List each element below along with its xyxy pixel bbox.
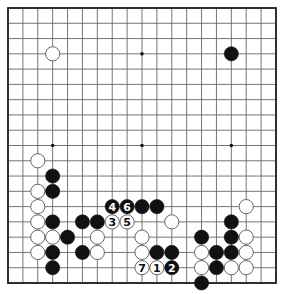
white-stone-7: 7 bbox=[135, 261, 149, 275]
move-number: 2 bbox=[168, 262, 176, 275]
stone-disc bbox=[209, 245, 223, 259]
stone-disc bbox=[46, 169, 60, 183]
white-stone bbox=[194, 261, 208, 275]
stone-disc bbox=[31, 230, 45, 244]
stone-disc bbox=[239, 230, 253, 244]
black-stone bbox=[46, 184, 60, 198]
stone-disc bbox=[90, 230, 104, 244]
stone-disc bbox=[60, 230, 74, 244]
white-stone bbox=[194, 245, 208, 259]
stone-disc bbox=[75, 215, 89, 229]
black-stone-6: 6 bbox=[120, 200, 134, 214]
black-stone bbox=[46, 169, 60, 183]
stone-disc bbox=[224, 261, 238, 275]
stone-disc bbox=[209, 261, 223, 275]
black-stone bbox=[194, 230, 208, 244]
move-number: 7 bbox=[138, 262, 146, 275]
stone-disc bbox=[224, 215, 238, 229]
go-board: 4635712 bbox=[0, 0, 286, 294]
stone-disc bbox=[46, 215, 60, 229]
black-stone bbox=[75, 245, 89, 259]
stone-disc bbox=[194, 245, 208, 259]
black-stone bbox=[209, 245, 223, 259]
white-stone bbox=[31, 215, 45, 229]
black-stone bbox=[224, 245, 238, 259]
white-stone-1: 1 bbox=[150, 261, 164, 275]
black-stone bbox=[194, 276, 208, 290]
stone-disc bbox=[46, 47, 60, 61]
white-stone bbox=[224, 261, 238, 275]
stone-disc bbox=[90, 215, 104, 229]
move-number: 4 bbox=[108, 201, 116, 214]
black-stone bbox=[135, 200, 149, 214]
black-stone bbox=[224, 215, 238, 229]
black-stone bbox=[75, 215, 89, 229]
stone-disc bbox=[31, 184, 45, 198]
black-stone bbox=[46, 245, 60, 259]
white-stone bbox=[31, 184, 45, 198]
stone-disc bbox=[194, 230, 208, 244]
black-stone bbox=[60, 230, 74, 244]
star-point bbox=[230, 144, 234, 148]
move-number: 5 bbox=[123, 216, 131, 229]
white-stone bbox=[165, 215, 179, 229]
move-number: 1 bbox=[153, 262, 161, 275]
black-stone bbox=[224, 47, 238, 61]
white-stone bbox=[90, 230, 104, 244]
white-stone-5: 5 bbox=[120, 215, 134, 229]
black-stone bbox=[46, 261, 60, 275]
stone-disc bbox=[194, 276, 208, 290]
stone-disc bbox=[165, 215, 179, 229]
move-number: 6 bbox=[123, 201, 131, 214]
star-point bbox=[140, 144, 144, 148]
stone-disc bbox=[224, 47, 238, 61]
white-stone bbox=[135, 245, 149, 259]
black-stone bbox=[224, 230, 238, 244]
stone-disc bbox=[46, 230, 60, 244]
black-stone bbox=[46, 215, 60, 229]
stone-disc bbox=[224, 230, 238, 244]
stone-disc bbox=[239, 245, 253, 259]
stone-disc bbox=[90, 245, 104, 259]
black-stone bbox=[90, 215, 104, 229]
black-stone bbox=[150, 200, 164, 214]
stone-disc bbox=[239, 261, 253, 275]
stone-disc bbox=[75, 245, 89, 259]
stone-disc bbox=[135, 230, 149, 244]
move-number: 3 bbox=[108, 216, 116, 229]
white-stone bbox=[46, 230, 60, 244]
star-point bbox=[51, 144, 55, 148]
white-stone bbox=[90, 245, 104, 259]
white-stone-3: 3 bbox=[105, 215, 119, 229]
white-stone bbox=[31, 245, 45, 259]
stone-disc bbox=[31, 215, 45, 229]
stone-disc bbox=[31, 245, 45, 259]
white-stone bbox=[31, 230, 45, 244]
stone-disc bbox=[224, 245, 238, 259]
black-stone-4: 4 bbox=[105, 200, 119, 214]
stone-disc bbox=[165, 245, 179, 259]
white-stone bbox=[31, 200, 45, 214]
white-stone bbox=[239, 230, 253, 244]
stone-disc bbox=[150, 200, 164, 214]
stone-disc bbox=[46, 184, 60, 198]
white-stone bbox=[239, 261, 253, 275]
black-stone bbox=[209, 261, 223, 275]
stone-disc bbox=[46, 261, 60, 275]
stone-disc bbox=[135, 245, 149, 259]
black-stone bbox=[165, 245, 179, 259]
white-stone bbox=[31, 154, 45, 168]
stone-disc bbox=[150, 245, 164, 259]
star-point bbox=[140, 52, 144, 56]
white-stone bbox=[239, 200, 253, 214]
white-stone bbox=[46, 47, 60, 61]
stone-disc bbox=[239, 200, 253, 214]
white-stone bbox=[239, 245, 253, 259]
white-stone bbox=[135, 230, 149, 244]
black-stone bbox=[150, 245, 164, 259]
stone-disc bbox=[135, 200, 149, 214]
stone-disc bbox=[31, 154, 45, 168]
stone-disc bbox=[194, 261, 208, 275]
stone-disc bbox=[46, 245, 60, 259]
black-stone-2: 2 bbox=[165, 261, 179, 275]
